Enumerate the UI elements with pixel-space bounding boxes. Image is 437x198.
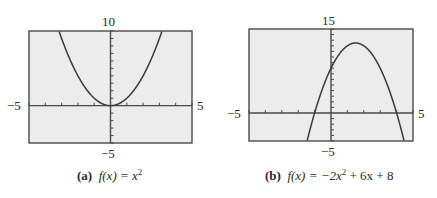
ymin-label-b: −5 <box>321 145 335 158</box>
caption-suffix-b: + 6x + 8 <box>346 168 393 183</box>
caption-formula-b: f(x) = −2x <box>287 168 341 183</box>
ymax-label-b: 15 <box>322 14 335 27</box>
caption-label-b: (b) <box>265 168 281 183</box>
xmin-label-b: −5 <box>227 107 241 120</box>
xmax-label-b: 5 <box>418 107 425 120</box>
caption-b: (b) f(x) = −2x2 + 6x + 8 <box>265 167 393 184</box>
